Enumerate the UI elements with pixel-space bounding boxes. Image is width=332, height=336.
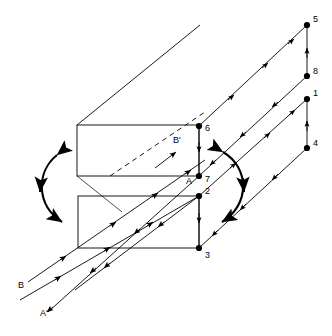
node-label-5: 5 xyxy=(313,14,318,24)
node-dot-4 xyxy=(304,145,310,151)
bprime-arrowhead xyxy=(155,152,176,168)
axis-label-a-prime: A' xyxy=(40,308,48,318)
node-label-3: 3 xyxy=(205,250,210,260)
right-rotation-arrow xyxy=(222,152,244,222)
node-dot-5 xyxy=(304,22,310,28)
ray-7-to-1 xyxy=(199,99,307,196)
upper-slab-face xyxy=(77,125,199,176)
node-dot-1 xyxy=(304,96,310,102)
node-labels: 58146723 xyxy=(205,14,318,260)
lower-slab xyxy=(78,196,199,248)
lower-slab-face xyxy=(78,196,199,248)
ray-B-to-Bprime xyxy=(28,160,205,282)
axis-label-b-prime: B' xyxy=(173,135,181,145)
node-dots xyxy=(196,22,310,251)
node-dot-7 xyxy=(196,173,202,179)
ray-4-to-3 xyxy=(199,148,307,248)
node-label-4: 4 xyxy=(313,138,318,148)
ray-8-to-6 xyxy=(199,76,307,176)
diagram-canvas: 58146723 AA'BB' xyxy=(0,0,332,336)
axis-label-b: B xyxy=(18,280,24,290)
node-label-2: 2 xyxy=(205,186,210,196)
node-label-7: 7 xyxy=(205,174,210,184)
upper-slab-left-depth xyxy=(77,176,122,212)
axis-label-a: A xyxy=(186,176,192,186)
node-label-1: 1 xyxy=(313,88,318,98)
node-dot-3 xyxy=(196,245,202,251)
ray-6-to-5 xyxy=(199,25,307,126)
node-dot-2 xyxy=(196,193,202,199)
depth-edge-left-top xyxy=(77,25,200,125)
node-dot-6 xyxy=(196,123,202,129)
ray-node2-down xyxy=(75,196,199,290)
figure-svg: 58146723 AA'BB' xyxy=(0,0,332,336)
left-rotation-arrow xyxy=(40,155,62,222)
upper-slab-top-face xyxy=(77,25,307,125)
node-dot-8 xyxy=(304,73,310,79)
axis-labels: AA'BB' xyxy=(18,135,192,318)
node-label-8: 8 xyxy=(313,66,318,76)
node-label-6: 6 xyxy=(205,123,210,133)
